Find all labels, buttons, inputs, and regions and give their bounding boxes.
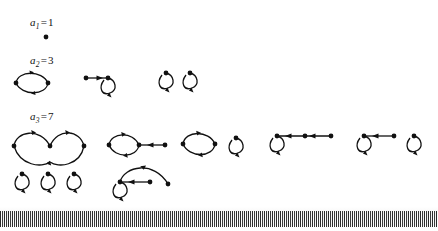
graph-self-loop-with-chain-of-two xyxy=(265,128,351,168)
row-label-a1-value: 1 xyxy=(48,16,54,28)
graph-two-self-loops xyxy=(156,66,212,102)
graph-self-loop-pendant-plus-self-loop xyxy=(352,128,436,168)
graph-arrow-into-self-loop xyxy=(80,66,136,102)
row-label-a2-equals: = xyxy=(40,54,48,66)
row-label-a1-equals: = xyxy=(40,16,48,28)
row-label-a3-value: 7 xyxy=(48,110,54,122)
graph-self-loop-with-arc-and-pendant xyxy=(106,158,192,206)
row-label-a2-value: 3 xyxy=(48,54,54,66)
figure-canvas: a1=1 a2=3 xyxy=(0,0,438,207)
graph-three-self-loops xyxy=(10,168,96,204)
row-label-a1: a1=1 xyxy=(30,16,54,31)
row-label-a3-equals: = xyxy=(40,110,48,122)
graph-two-vertex-digon xyxy=(8,66,60,100)
barcode-strip xyxy=(0,211,438,227)
row-label-a3: a3=7 xyxy=(30,110,54,125)
graph-three-vertex-double-arc-cycle xyxy=(6,124,98,170)
graph-single-vertex xyxy=(38,30,58,44)
